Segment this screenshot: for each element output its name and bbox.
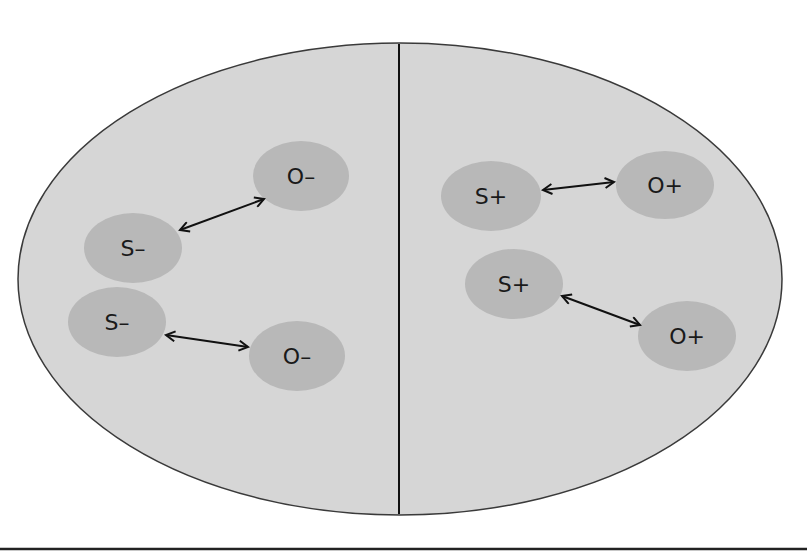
object-node-label: O– [287, 164, 315, 189]
object-node-label: O+ [647, 173, 683, 198]
subject-node-label: S– [105, 310, 130, 335]
diagram: O– S– S– O– S+ O+ S+ O+ [0, 0, 807, 551]
object-node-label: O– [283, 344, 311, 369]
subject-node-label: S– [121, 236, 146, 261]
subject-node-label: S+ [498, 272, 530, 297]
object-node-label: O+ [669, 324, 705, 349]
subject-node-label: S+ [475, 184, 507, 209]
